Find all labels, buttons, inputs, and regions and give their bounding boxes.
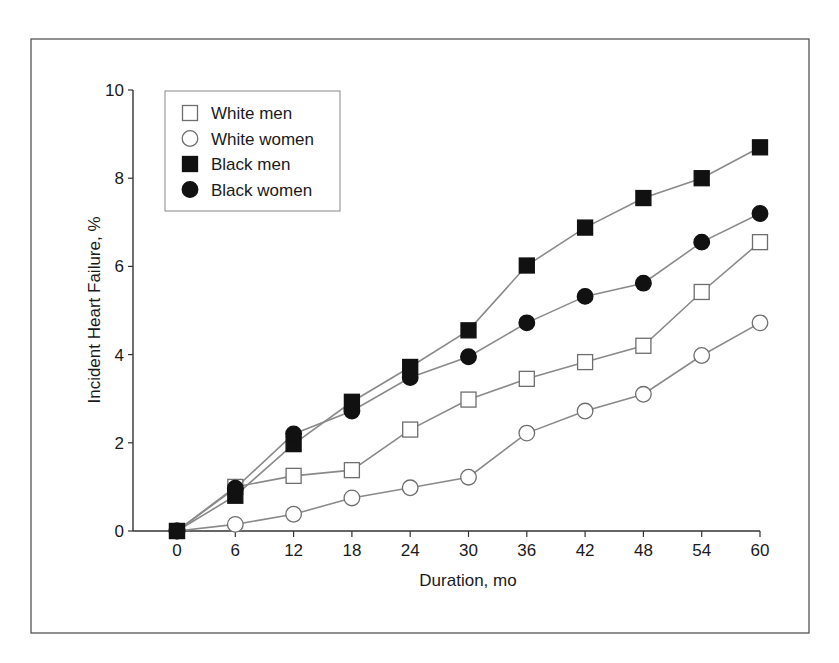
data-point (694, 284, 709, 299)
x-tick-label: 30 (459, 541, 478, 560)
legend-label: White men (211, 104, 292, 123)
x-tick-label: 48 (634, 541, 653, 560)
legend-label: Black men (211, 155, 290, 174)
y-tick-label: 6 (115, 257, 124, 276)
data-point (519, 258, 534, 273)
data-point (461, 323, 476, 338)
data-point (286, 506, 302, 522)
data-point (636, 191, 651, 206)
y-tick-label: 8 (115, 169, 124, 188)
x-tick-label: 60 (751, 541, 770, 560)
data-point (344, 490, 360, 506)
legend-marker-filled-square (183, 157, 198, 172)
x-tick-label: 6 (231, 541, 240, 560)
data-point (286, 426, 302, 442)
data-point (461, 469, 477, 485)
x-tick-label: 0 (172, 541, 181, 560)
data-point (753, 235, 768, 250)
data-point (402, 480, 418, 496)
y-tick-label: 10 (105, 81, 124, 100)
y-axis-label: Incident Heart Failure, % (85, 216, 104, 403)
x-axis-label: Duration, mo (419, 571, 516, 590)
data-point (752, 315, 768, 331)
data-point (577, 289, 593, 305)
data-point (228, 480, 244, 496)
data-point (519, 371, 534, 386)
data-point (752, 206, 768, 222)
data-point (344, 463, 359, 478)
data-point (578, 355, 593, 370)
data-point (694, 171, 709, 186)
legend-marker-open-circle (182, 131, 198, 147)
y-tick-label: 4 (115, 346, 124, 365)
data-point (636, 338, 651, 353)
x-tick-label: 12 (284, 541, 303, 560)
data-point (578, 220, 593, 235)
data-point (636, 275, 652, 291)
legend-label: White women (211, 130, 314, 149)
x-tick-label: 18 (342, 541, 361, 560)
legend-label: Black women (211, 181, 312, 200)
x-tick-label: 24 (401, 541, 420, 560)
data-point (636, 386, 652, 402)
legend-marker-open-square (183, 106, 198, 121)
data-point (519, 315, 535, 331)
data-point (402, 370, 418, 386)
line-chart: 024681006121824303642485460 White menWhi… (0, 0, 839, 663)
data-point (694, 348, 710, 364)
data-point (344, 403, 360, 419)
data-point (228, 517, 244, 533)
x-tick-label: 36 (517, 541, 536, 560)
y-tick-label: 0 (115, 522, 124, 541)
data-point (519, 425, 535, 441)
data-point (461, 349, 477, 365)
data-point (461, 392, 476, 407)
data-point (577, 403, 593, 419)
legend: White menWhite womenBlack menBlack women (165, 91, 340, 211)
x-tick-label: 42 (576, 541, 595, 560)
data-point (403, 422, 418, 437)
data-point (753, 140, 768, 155)
data-point (169, 523, 185, 539)
data-point (286, 468, 301, 483)
data-point (694, 234, 710, 250)
x-tick-label: 54 (692, 541, 711, 560)
y-tick-label: 2 (115, 434, 124, 453)
legend-marker-filled-circle (182, 182, 198, 198)
